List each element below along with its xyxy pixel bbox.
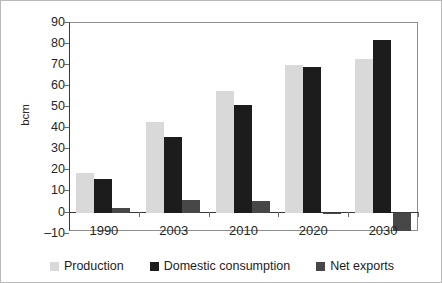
y-axis-tick-mark (64, 190, 69, 191)
y-axis-tick-label: 60 (25, 79, 65, 92)
y-axis-tick-mark (64, 169, 69, 170)
y-axis-tick-mark (64, 148, 69, 149)
y-axis-tick-mark (64, 127, 69, 128)
y-axis-tick-mark (64, 233, 69, 234)
y-axis-tick-label: 90 (25, 16, 65, 29)
y-axis-tick-label: 50 (25, 100, 65, 113)
y-axis-tick-label: 0 (25, 205, 65, 218)
y-axis-tick-label: 80 (25, 37, 65, 50)
legend-swatch-icon (150, 262, 159, 271)
legend-label: Production (64, 259, 124, 273)
x-axis: 19902003201020202030 (69, 1, 418, 283)
x-axis-tick-label: 2030 (348, 223, 418, 238)
y-axis: bcm 9080706050403020100–10 (19, 1, 65, 283)
x-axis-tick-mark (418, 212, 419, 217)
y-axis-tick-label: –10 (25, 226, 65, 239)
legend-swatch-icon (316, 262, 325, 271)
x-axis-tick-mark (348, 212, 349, 217)
legend-swatch-icon (50, 262, 59, 271)
legend-label: Domestic consumption (164, 259, 290, 273)
chart-legend: ProductionDomestic consumptionNet export… (1, 259, 442, 273)
y-axis-tick-mark (64, 22, 69, 23)
legend-item: Domestic consumption (150, 259, 290, 273)
x-axis-tick-label: 2020 (278, 223, 348, 238)
y-axis-tick-label: 10 (25, 184, 65, 197)
y-axis-tick-mark (64, 43, 69, 44)
y-axis-tick-mark (64, 212, 69, 213)
legend-item: Net exports (316, 259, 394, 273)
x-axis-tick-mark (209, 212, 210, 217)
x-axis-tick-label: 2003 (139, 223, 209, 238)
legend-item: Production (50, 259, 124, 273)
chart-container: bcm 9080706050403020100–10 1990200320102… (0, 0, 442, 283)
y-axis-tick-label: 30 (25, 142, 65, 155)
y-axis-tick-label: 40 (25, 121, 65, 134)
y-axis-tick-mark (64, 85, 69, 86)
legend-label: Net exports (330, 259, 394, 273)
x-axis-tick-label: 1990 (69, 223, 139, 238)
y-axis-tick-mark (64, 64, 69, 65)
y-axis-tick-label: 70 (25, 58, 65, 71)
x-axis-tick-label: 2010 (209, 223, 279, 238)
y-axis-tick-mark (64, 106, 69, 107)
x-axis-tick-mark (139, 212, 140, 217)
x-axis-tick-mark (278, 212, 279, 217)
y-axis-tick-label: 20 (25, 163, 65, 176)
